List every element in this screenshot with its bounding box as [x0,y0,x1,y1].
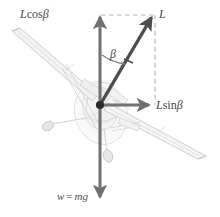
aircraft-left-wing [12,28,98,101]
label-lsin-angle: β [177,98,183,112]
label-lcos-symbol: L [20,7,27,21]
label-weight-rhs: mg [75,190,88,202]
figure-canvas: Lcosβ L β Lsinβ w=mg [0,0,220,217]
label-lift-vector: L [159,8,166,20]
origin-point [96,101,104,109]
label-lift-vertical-component: Lcosβ [20,8,49,20]
label-lift-horizontal-component: Lsinβ [156,99,183,111]
label-lcos-function: cos [27,7,43,21]
label-weight-equals: = [64,190,74,202]
label-bank-angle: β [110,48,116,60]
aircraft-sketch [12,28,206,163]
label-lsin-symbol: L [156,98,163,112]
label-lsin-function: sin [163,98,177,112]
label-lcos-angle: β [43,7,49,21]
label-weight: w=mg [57,191,88,202]
force-diagram-svg [0,0,220,217]
lift-vector-arrow [100,18,152,106]
